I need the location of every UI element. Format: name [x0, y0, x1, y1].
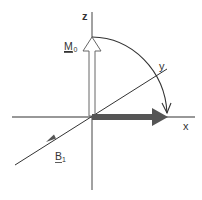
b1-label: B — [55, 150, 62, 162]
m0-hollow-arrow — [83, 37, 101, 116]
rotation-arc — [92, 37, 167, 113]
z-axis-label: z — [82, 10, 88, 22]
x-axis-label: x — [183, 120, 189, 132]
b1-label-subscript: 1 — [62, 156, 66, 163]
magnetization-rotation-diagram: z y x M 0 B 1 — [0, 0, 202, 200]
b1-arrowhead-icon — [46, 135, 56, 143]
y-axis-label: y — [159, 60, 165, 72]
m0-label: M — [64, 40, 73, 52]
m0-label-subscript: 0 — [74, 46, 78, 53]
rotated-magnetization-arrow — [92, 108, 168, 126]
